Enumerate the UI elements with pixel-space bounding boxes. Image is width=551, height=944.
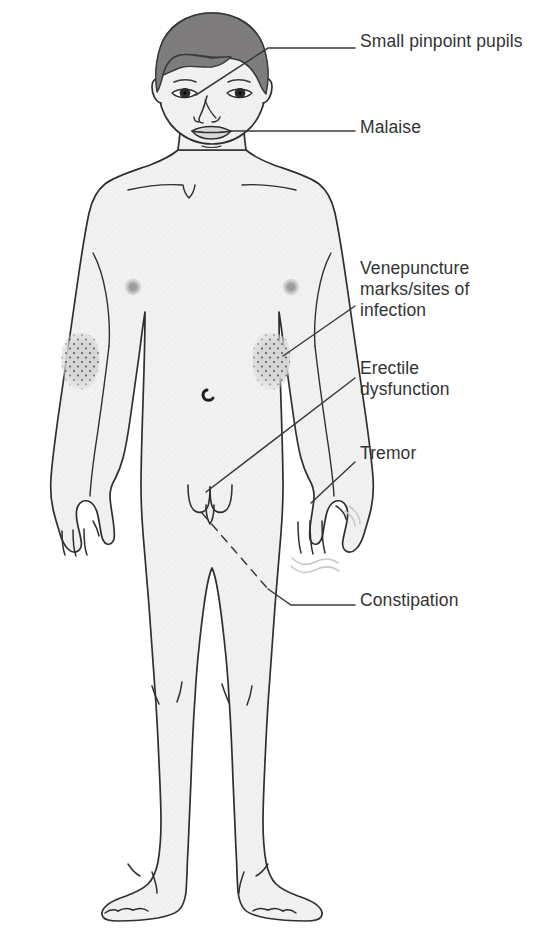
nipple-left (125, 279, 142, 296)
nipple-right (283, 279, 300, 296)
pupil-right-pinpoint (239, 92, 242, 95)
label-erectile-dysfunction: Erectile dysfunction (360, 358, 450, 400)
label-venepuncture-marks: Venepuncture marks/sites of infection (360, 258, 469, 321)
venepuncture-mark-left (61, 333, 99, 391)
label-tremor: Tremor (360, 443, 416, 464)
pupil-left-pinpoint (184, 92, 187, 95)
label-small-pinpoint-pupils: Small pinpoint pupils (360, 31, 523, 52)
label-constipation: Constipation (360, 590, 458, 611)
clinical-features-diagram (0, 0, 551, 944)
label-malaise: Malaise (360, 117, 421, 138)
venepuncture-mark-right (252, 333, 290, 391)
